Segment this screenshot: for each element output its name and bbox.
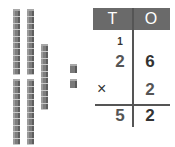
- rod-cube-segment: [27, 139, 34, 145]
- multiplicand-tens: 2: [110, 52, 130, 72]
- result-tens: 5: [110, 106, 130, 126]
- tens-rod: [27, 11, 34, 75]
- unit-cube: [70, 81, 77, 88]
- times-operator: ×: [97, 80, 106, 98]
- header-ones: O: [132, 8, 170, 30]
- column-divider: [132, 8, 134, 127]
- rod-cube-segment: [27, 69, 34, 75]
- rod-cube-segment: [13, 69, 20, 75]
- unit-cube: [70, 66, 77, 73]
- rod-cube-segment: [13, 139, 20, 145]
- tens-rod: [41, 46, 48, 110]
- tens-rod: [13, 81, 20, 145]
- rod-cube-segment: [41, 104, 48, 110]
- tens-rod: [13, 11, 20, 75]
- tens-rod: [27, 81, 34, 145]
- result-ones: 2: [140, 106, 160, 126]
- multiplicand-ones: 6: [140, 52, 160, 72]
- carry-digit: 1: [110, 36, 130, 47]
- header-tens: T: [93, 8, 132, 30]
- multiplier-ones: 2: [140, 80, 160, 100]
